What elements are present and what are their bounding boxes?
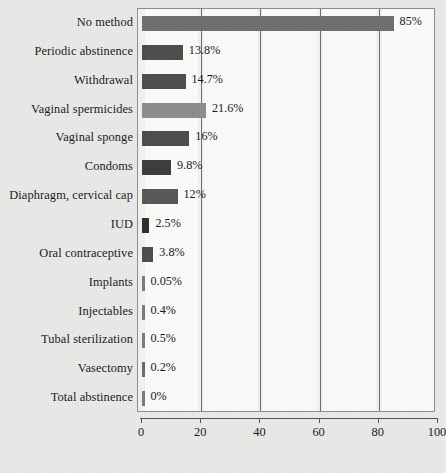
- bar-value-label: 14.7%: [192, 72, 223, 87]
- bar: [142, 160, 171, 175]
- bar-row: 13.8%: [138, 38, 434, 67]
- category-label: Periodic abstinence: [0, 45, 133, 58]
- bar-value-label: 0%: [151, 389, 167, 404]
- category-axis-labels: No methodPeriodic abstinenceWithdrawalVa…: [0, 8, 133, 412]
- category-label: Injectables: [0, 305, 133, 318]
- category-label: Implants: [0, 276, 133, 289]
- x-tick-label: 60: [312, 425, 324, 439]
- bar: [142, 74, 186, 89]
- category-label: No method: [0, 16, 133, 29]
- bar: [142, 218, 149, 233]
- bar: [142, 362, 145, 377]
- bar-row: 0.4%: [138, 298, 434, 327]
- bar: [142, 189, 178, 204]
- category-label: Total abstinence: [0, 391, 133, 404]
- bar-value-label: 0.05%: [151, 274, 182, 289]
- bar-value-label: 9.8%: [177, 158, 202, 173]
- category-label: Vaginal spermicides: [0, 103, 133, 116]
- bar: [142, 391, 145, 406]
- x-axis-line: [140, 418, 438, 419]
- bar-value-label: 13.8%: [189, 43, 220, 58]
- bar-row: 2.5%: [138, 211, 434, 240]
- x-tick-mark: [200, 418, 201, 423]
- bar-value-label: 2.5%: [155, 216, 180, 231]
- category-label: Oral contraceptive: [0, 247, 133, 260]
- x-tick-mark: [378, 418, 379, 423]
- bar-value-label: 12%: [184, 187, 206, 202]
- x-tick-mark: [141, 418, 142, 423]
- bar-value-label: 85%: [400, 14, 422, 29]
- bar-value-label: 16%: [195, 129, 217, 144]
- bar-row: 9.8%: [138, 153, 434, 182]
- bar: [142, 16, 394, 31]
- bar: [142, 131, 189, 146]
- category-label: Diaphragm, cervical cap: [0, 189, 133, 202]
- bar-value-label: 0.2%: [151, 360, 176, 375]
- x-tick-mark: [437, 418, 438, 423]
- category-label: Vasectomy: [0, 362, 133, 375]
- bar-row: 0.2%: [138, 355, 434, 384]
- x-tick-label: 40: [253, 425, 265, 439]
- plot-area: 85%13.8%14.7%21.6%16%9.8%12%2.5%3.8%0.05…: [137, 8, 435, 412]
- bar: [142, 247, 153, 262]
- bar-value-label: 3.8%: [159, 245, 184, 260]
- bar: [142, 276, 145, 291]
- bar-row: 0%: [138, 384, 434, 411]
- category-label: Vaginal sponge: [0, 131, 133, 144]
- bar-row: 0.05%: [138, 269, 434, 298]
- x-tick-label: 20: [194, 425, 206, 439]
- bar-row: 85%: [138, 9, 434, 38]
- plot-inner: 85%13.8%14.7%21.6%16%9.8%12%2.5%3.8%0.05…: [138, 9, 434, 411]
- category-label: IUD: [0, 218, 133, 231]
- bar-row: 14.7%: [138, 67, 434, 96]
- bar-row: 12%: [138, 182, 434, 211]
- bar-value-label: 0.5%: [151, 331, 176, 346]
- category-label: Tubal sterilization: [0, 333, 133, 346]
- bar-row: 3.8%: [138, 240, 434, 269]
- x-tick-mark: [259, 418, 260, 423]
- category-label: Withdrawal: [0, 74, 133, 87]
- bar-row: 21.6%: [138, 96, 434, 125]
- bar: [142, 45, 183, 60]
- bar: [142, 333, 145, 348]
- bar-row: 16%: [138, 124, 434, 153]
- x-tick-label: 0: [138, 425, 144, 439]
- bar-row: 0.5%: [138, 326, 434, 355]
- bar-value-label: 0.4%: [151, 303, 176, 318]
- bar-value-label: 21.6%: [212, 101, 243, 116]
- x-tick-label: 100: [428, 425, 446, 439]
- bar: [142, 305, 145, 320]
- category-label: Condoms: [0, 160, 133, 173]
- bar: [142, 103, 206, 118]
- x-tick-label: 80: [372, 425, 384, 439]
- x-tick-mark: [319, 418, 320, 423]
